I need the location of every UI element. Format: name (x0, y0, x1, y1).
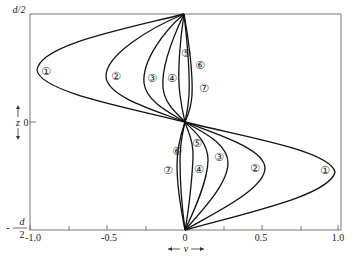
y-bottom-label: d 2 - (6, 216, 27, 240)
curve-label-4: ④ (167, 72, 177, 85)
x-tick-label: -1.0 (25, 232, 41, 243)
svg-text:2: 2 (20, 229, 25, 240)
curve-label-5-lower: ⑤ (192, 137, 202, 150)
x-tick-label: -0.5 (101, 232, 117, 243)
y-top-label: d/2 (13, 4, 26, 15)
x-ticks (30, 122, 338, 230)
x-tick-label: 0.5 (255, 232, 268, 243)
curve-label-2-lower: ② (250, 162, 260, 175)
curve-label-2: ② (111, 70, 121, 83)
svg-text:-: - (6, 222, 9, 233)
x-tick-label: 0 (183, 232, 188, 243)
curve-label-1: ① (41, 65, 51, 78)
curve-label-6: ⑥ (195, 59, 205, 72)
curve-label-3-lower: ③ (214, 151, 224, 164)
x-tick-label: 1.0 (332, 232, 345, 243)
x-axis-label: v (168, 243, 204, 254)
svg-text:d: d (20, 216, 26, 227)
velocity-profile-chart: -1.0 -0.5 0 0.5 1.0 v d/2 0 d 2 - z (0, 0, 356, 256)
curve-label-7: ⑦ (199, 82, 209, 95)
y-mid-label: 0 (24, 117, 29, 128)
curve-label-3: ③ (147, 72, 157, 85)
y-axis-symbol: z (15, 117, 20, 128)
y-axis-label: z (15, 105, 20, 140)
curve-label-7-lower: ⑦ (163, 164, 173, 177)
curve-label-6-lower: ⑥ (172, 145, 182, 158)
curve-label-5: ⑤ (181, 47, 191, 60)
curve-label-4-lower: ④ (194, 163, 204, 176)
x-axis-symbol: v (184, 243, 189, 254)
curve-label-1-lower: ① (320, 164, 330, 177)
